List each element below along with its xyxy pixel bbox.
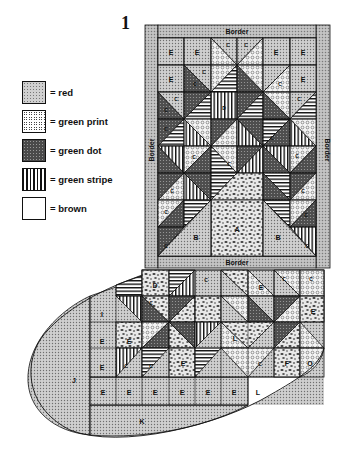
stocking-quilt-diagram: Border Border Border Border E E E E E E …: [0, 0, 342, 462]
piece-label: C: [193, 81, 197, 87]
piece-label: E: [195, 49, 200, 56]
piece-label: E: [101, 389, 106, 396]
piece-label: K: [139, 418, 144, 425]
piece-label: C: [164, 126, 168, 132]
piece-label: C: [227, 161, 231, 167]
foot-panel: [28, 270, 324, 437]
piece-label: E: [100, 338, 105, 345]
piece-label: O: [307, 360, 313, 367]
piece-label: C: [305, 243, 309, 249]
piece-label: C: [226, 42, 230, 48]
piece-label: C: [282, 276, 286, 282]
piece-label: D: [222, 105, 226, 111]
piece-label: B: [193, 234, 198, 241]
piece-label: C: [174, 96, 178, 102]
piece-label: E: [169, 49, 174, 56]
piece-label: E: [127, 338, 132, 345]
piece-label: D: [152, 282, 157, 289]
border-label-bottom: Border: [226, 259, 249, 266]
piece-label: C: [301, 188, 305, 194]
piece-label: C: [164, 209, 168, 215]
piece-label: E: [181, 360, 186, 367]
piece-label: E: [301, 76, 306, 83]
piece-label: C: [295, 153, 299, 159]
piece-label: J: [72, 377, 76, 384]
piece-label: C: [192, 154, 196, 160]
heel-piece-j: [28, 296, 90, 435]
piece-label: C: [278, 81, 282, 87]
piece-label: C: [202, 69, 206, 75]
piece-label: E: [100, 364, 105, 371]
piece-label: F: [285, 360, 290, 367]
piece-label: C: [258, 361, 262, 367]
piece-label: E: [206, 389, 211, 396]
piece-label: E: [127, 389, 132, 396]
piece-label: C: [204, 277, 208, 283]
piece-label: E: [274, 49, 279, 56]
piece-label: E: [180, 389, 185, 396]
piece-label: B: [275, 234, 280, 241]
border-label-right: Border: [324, 139, 331, 162]
piece-label: C: [170, 188, 174, 194]
piece-label: E: [259, 284, 264, 291]
piece-label: C: [244, 42, 248, 48]
piece-label: E: [301, 49, 306, 56]
border-label-top: Border: [226, 28, 249, 35]
piece-label: E: [311, 308, 316, 315]
piece-label: C: [164, 243, 168, 249]
piece-label: C: [297, 96, 301, 102]
piece-label: I: [101, 311, 103, 318]
piece-label: C: [270, 135, 274, 141]
piece-label: L: [233, 335, 238, 342]
piece-label: C: [149, 300, 153, 306]
piece-label: C: [309, 276, 313, 282]
piece-label: A: [234, 226, 239, 233]
piece-label: E: [169, 76, 174, 83]
piece-label: C: [164, 107, 168, 113]
piece-label: C: [304, 212, 308, 218]
piece-label: C: [124, 363, 128, 369]
piece-label: E: [232, 389, 237, 396]
piece-label: E: [153, 389, 158, 396]
piece-label: C: [149, 363, 153, 369]
border-label-left: Border: [148, 138, 155, 161]
piece-label: L: [256, 389, 261, 396]
